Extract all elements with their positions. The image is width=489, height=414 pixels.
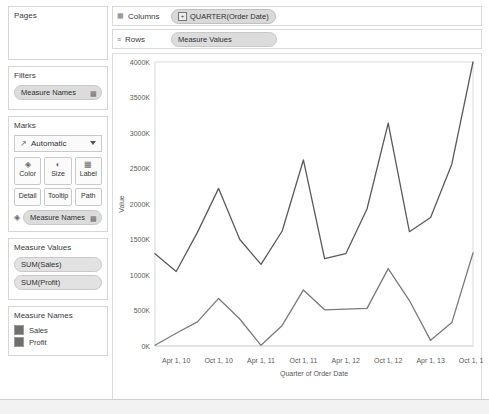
y-axis-tick-label: 3500K: [130, 94, 151, 101]
columns-label-text: Columns: [128, 12, 160, 21]
columns-shelf[interactable]: ▦ Columns +QUARTER(Order Date): [112, 6, 482, 26]
marks-encoding-pill[interactable]: Measure Names ▩: [23, 210, 102, 225]
measure-values-card: Measure Values SUM(Sales) SUM(Profit): [8, 238, 108, 300]
line-chart-icon: ↗: [20, 136, 27, 151]
expand-icon[interactable]: +: [178, 12, 187, 21]
x-axis-tick-label: Apr 1, 11: [247, 357, 275, 365]
marks-color-button[interactable]: ◈ Color: [14, 157, 41, 185]
x-axis-tick-label: Apr 1, 13: [416, 357, 445, 365]
rows-pill-measure-values[interactable]: Measure Values: [171, 32, 277, 47]
marks-path-button[interactable]: Path: [75, 188, 102, 206]
line-chart: 0K500K1000K1500K2000K2500K3000K3500K4000…: [113, 54, 483, 406]
measure-values-title: Measure Values: [14, 243, 102, 253]
marks-color-label: Color: [19, 170, 36, 177]
filter-pill-measure-names[interactable]: Measure Names ▩: [14, 85, 102, 100]
marks-size-label: Size: [51, 170, 65, 177]
legend-swatch: [14, 337, 24, 347]
columns-shelf-label: ▦ Columns: [117, 12, 171, 21]
size-icon: ◐: [45, 160, 70, 169]
filters-title: Filters: [14, 71, 102, 81]
x-axis-tick-label: Oct 1, 12: [374, 357, 403, 364]
legend-title: Measure Names: [14, 311, 102, 321]
legend-swatch: [14, 325, 24, 335]
marks-encoding-row: ◈ Measure Names ▩: [14, 210, 102, 225]
y-axis-tick-label: 1500K: [130, 236, 151, 243]
y-axis-tick-label: 2500K: [130, 165, 151, 172]
x-axis-tick-label: Oct 1, 13: [459, 357, 483, 364]
chevron-down-icon: [90, 141, 96, 145]
x-axis-tick-label: Apr 1, 12: [332, 357, 361, 365]
marks-button-row-2: Detail Tooltip Path: [14, 188, 102, 206]
bar-chart-icon: ▩: [90, 212, 97, 225]
status-bar: [0, 399, 489, 414]
left-sidebar: Pages Filters Measure Names ▩ Marks ↗ Au…: [8, 6, 108, 362]
y-axis-tick-label: 0K: [141, 343, 150, 350]
rows-shelf-label: ≡ Rows: [117, 35, 171, 44]
color-icon: ◈: [14, 213, 20, 222]
marks-type-label: Automatic: [31, 136, 67, 151]
y-axis-tick-label: 4000K: [130, 59, 151, 66]
measure-value-label: SUM(Sales): [21, 260, 61, 269]
measure-value-pill-sales[interactable]: SUM(Sales): [14, 257, 102, 272]
plot-area: [155, 62, 473, 346]
pages-title: Pages: [14, 11, 102, 21]
marks-title: Marks: [14, 121, 102, 131]
legend-item-label: Profit: [29, 338, 47, 347]
x-axis-title: Quarter of Order Date: [280, 370, 348, 378]
y-axis-tick-label: 2000K: [130, 201, 151, 208]
rows-shelf[interactable]: ≡ Rows Measure Values: [112, 29, 482, 49]
pages-card: Pages: [8, 6, 108, 60]
y-axis-title: Value: [118, 195, 125, 212]
marks-encoding-label: Measure Names: [30, 213, 85, 222]
marks-size-button[interactable]: ◐ Size: [44, 157, 71, 185]
y-axis-tick-label: 500K: [134, 307, 151, 314]
marks-tooltip-button[interactable]: Tooltip: [44, 188, 71, 206]
measure-names-legend: Measure Names Sales Profit: [8, 306, 108, 356]
chart-card: 0K500K1000K1500K2000K2500K3000K3500K4000…: [112, 53, 482, 407]
rows-pill-label: Measure Values: [178, 35, 232, 44]
marks-path-label: Path: [81, 192, 95, 199]
marks-button-row-1: ◈ Color ◐ Size ▦ Label: [14, 157, 102, 185]
marks-type-dropdown[interactable]: ↗ Automatic: [14, 135, 102, 152]
rows-icon: ≡: [117, 36, 121, 43]
status-text: [0, 400, 489, 402]
main-panel: ▦ Columns +QUARTER(Order Date) ≡ Rows Me…: [112, 6, 482, 407]
x-axis-tick-label: Oct 1, 10: [204, 357, 233, 364]
y-axis-tick-label: 1000K: [130, 272, 151, 279]
color-icon: ◈: [15, 160, 40, 169]
bar-chart-icon: ▩: [90, 87, 97, 100]
marks-label-button[interactable]: ▦ Label: [75, 157, 102, 185]
filter-pill-label: Measure Names: [21, 88, 76, 97]
y-axis-tick-label: 3000K: [130, 130, 151, 137]
x-axis-tick-label: Oct 1, 11: [289, 357, 317, 364]
filters-card: Filters Measure Names ▩: [8, 66, 108, 110]
marks-label-label: Label: [80, 170, 97, 177]
rows-label-text: Rows: [125, 35, 145, 44]
measure-value-pill-profit[interactable]: SUM(Profit): [14, 275, 102, 290]
legend-item-profit[interactable]: Profit: [14, 337, 102, 347]
label-icon: ▦: [76, 160, 101, 169]
pages-dropzone[interactable]: [14, 25, 102, 53]
marks-detail-label: Detail: [19, 192, 37, 199]
columns-pill-quarter-order-date[interactable]: +QUARTER(Order Date): [171, 9, 276, 24]
legend-item-label: Sales: [29, 326, 48, 335]
legend-item-sales[interactable]: Sales: [14, 325, 102, 335]
x-axis-tick-label: Apr 1, 10: [162, 357, 191, 365]
measure-value-label: SUM(Profit): [21, 278, 60, 287]
marks-tooltip-label: Tooltip: [48, 192, 68, 199]
marks-card: Marks ↗ Automatic ◈ Color ◐ Size ▦ Label…: [8, 116, 108, 232]
columns-pill-label: QUARTER(Order Date): [190, 12, 269, 21]
columns-icon: ▦: [117, 12, 124, 20]
marks-detail-button[interactable]: Detail: [14, 188, 41, 206]
